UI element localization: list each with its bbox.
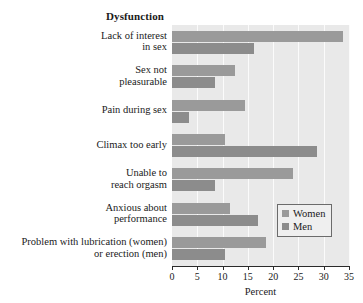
category-label-line: reach orgasm [111, 179, 167, 191]
bar-men-0 [172, 43, 254, 54]
chart-figure: Dysfunction Lack of interestin sexSex no… [0, 0, 363, 303]
category-label-line: in sex [101, 41, 167, 53]
category-label-1: Sex notpleasurable [119, 64, 167, 87]
x-tick-label-15: 15 [236, 271, 260, 282]
category-label-line: Unable to [111, 167, 167, 179]
x-tick-0 [172, 266, 173, 270]
category-label-line: Anxious about [105, 202, 167, 214]
x-tick-label-0: 0 [160, 271, 184, 282]
chart-title: Dysfunction [0, 10, 172, 22]
bar-men-2 [172, 112, 189, 123]
x-tick-label-20: 20 [261, 271, 285, 282]
bar-men-5 [172, 215, 258, 226]
category-label-4: Unable toreach orgasm [111, 167, 167, 190]
x-tick-10 [223, 266, 224, 270]
chart-legend: WomenMen [277, 204, 332, 237]
category-label-3: Climax too early [96, 139, 167, 151]
x-tick-5 [197, 266, 198, 270]
legend-swatch-icon [282, 223, 289, 230]
legend-item-women: Women [282, 207, 325, 220]
legend-item-men: Men [282, 220, 325, 233]
x-tick-30 [324, 266, 325, 270]
category-label-line: Problem with lubrication (women) [21, 236, 167, 248]
y-axis-category-labels: Lack of interestin sexSex notpleasurable… [0, 25, 170, 266]
bar-women-6 [172, 237, 266, 248]
category-label-line: or erection (men) [21, 248, 167, 260]
category-label-line: Lack of interest [101, 30, 167, 42]
bar-women-2 [172, 100, 245, 111]
category-label-6: Problem with lubrication (women)or erect… [21, 236, 167, 259]
category-label-line: Pain during sex [102, 104, 167, 116]
x-tick-35 [349, 266, 350, 270]
category-label-line: performance [105, 213, 167, 225]
legend-label: Men [293, 221, 312, 232]
x-tick-15 [248, 266, 249, 270]
bar-women-5 [172, 203, 230, 214]
category-label-line: pleasurable [119, 76, 167, 88]
x-axis-title: Percent [172, 286, 349, 297]
bar-women-3 [172, 134, 225, 145]
bar-women-0 [172, 31, 343, 42]
x-axis-line [172, 266, 349, 267]
bar-men-3 [172, 146, 317, 157]
legend-swatch-icon [282, 210, 289, 217]
bar-women-1 [172, 65, 235, 76]
category-label-line: Climax too early [96, 139, 167, 151]
x-tick-20 [273, 266, 274, 270]
x-tick-label-30: 30 [312, 271, 336, 282]
bar-men-1 [172, 77, 215, 88]
bar-men-6 [172, 249, 225, 260]
x-tick-25 [298, 266, 299, 270]
x-tick-label-35: 35 [337, 271, 361, 282]
bar-men-4 [172, 180, 215, 191]
category-label-line: Sex not [119, 64, 167, 76]
x-tick-label-10: 10 [211, 271, 235, 282]
legend-label: Women [293, 208, 325, 219]
category-label-0: Lack of interestin sex [101, 30, 167, 53]
category-label-5: Anxious aboutperformance [105, 202, 167, 225]
x-tick-label-5: 5 [185, 271, 209, 282]
x-tick-label-25: 25 [286, 271, 310, 282]
gridline-35 [349, 25, 350, 266]
category-label-2: Pain during sex [102, 104, 167, 116]
bar-women-4 [172, 168, 293, 179]
